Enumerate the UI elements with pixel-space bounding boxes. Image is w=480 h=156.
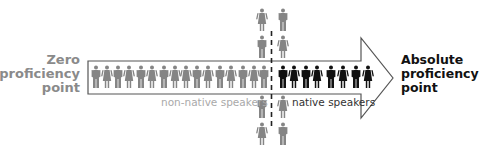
non-native-speakers-caption: non-native speakers bbox=[161, 96, 268, 108]
label-line: proficiency bbox=[0, 67, 80, 81]
label-line: point bbox=[401, 81, 480, 95]
native-speakers-caption: native speakers bbox=[292, 96, 375, 108]
absolute-proficiency-label: Absolute proficiency point bbox=[401, 53, 480, 95]
label-line: Zero bbox=[0, 53, 80, 67]
label-line: Absolute bbox=[401, 53, 480, 67]
label-line: proficiency bbox=[401, 67, 480, 81]
zero-proficiency-label: Zero proficiency point bbox=[0, 53, 80, 95]
boundary-figures-above bbox=[256, 9, 289, 59]
label-line: point bbox=[0, 81, 80, 95]
